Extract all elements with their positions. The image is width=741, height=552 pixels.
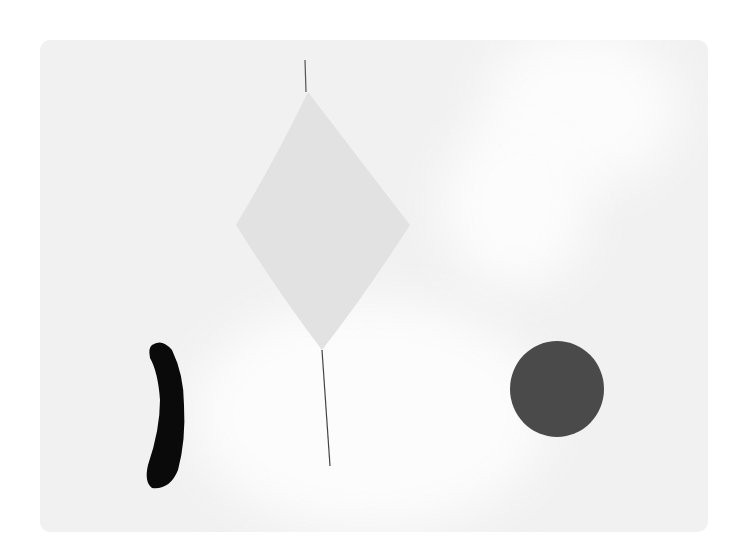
thread-line-bottom (322, 350, 330, 466)
thread-line-top (305, 60, 306, 92)
black-crescent-shape (147, 342, 185, 488)
artwork-shapes (0, 0, 741, 552)
diamond-shape (236, 92, 410, 350)
dark-circle-shape (510, 341, 604, 437)
